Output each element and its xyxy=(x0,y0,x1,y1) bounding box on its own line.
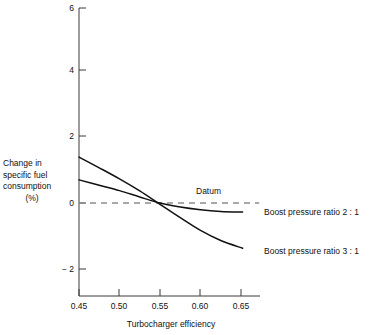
y-tick-label-2: 2 xyxy=(52,131,74,141)
y-axis-title-line-3: consumption xyxy=(3,181,51,191)
x-axis-ticks xyxy=(79,289,241,296)
y-axis-title: Change in specific fuel consumption (%) xyxy=(3,158,67,204)
y-tick-label-minus-2: − 2 xyxy=(45,264,74,274)
y-tick-label-4: 4 xyxy=(52,65,74,75)
y-axis-title-units: (%) xyxy=(3,193,67,205)
y-axis-ticks xyxy=(79,8,86,269)
x-axis-title: Turbocharger efficiency xyxy=(96,319,246,329)
x-tick-label-0-60: 0.60 xyxy=(183,301,217,311)
y-axis-title-line-2: specific fuel xyxy=(3,170,47,180)
y-tick-label-6: 6 xyxy=(52,3,74,13)
y-axis-title-line-1: Change in xyxy=(3,158,42,168)
series-label-boost-2-1: Boost pressure ratio 2 : 1 xyxy=(264,207,359,217)
x-tick-label-0-50: 0.50 xyxy=(102,301,136,311)
series-label-boost-3-1: Boost pressure ratio 3 : 1 xyxy=(264,246,359,256)
x-tick-label-0-55: 0.55 xyxy=(143,301,177,311)
x-tick-label-0-65: 0.65 xyxy=(224,301,258,311)
x-tick-label-0-45: 0.45 xyxy=(62,301,96,311)
chart-container: 6 4 2 0 − 2 0.45 0.50 0.55 0.60 0.65 Cha… xyxy=(0,0,374,335)
datum-annotation-label: Datum xyxy=(196,186,221,196)
